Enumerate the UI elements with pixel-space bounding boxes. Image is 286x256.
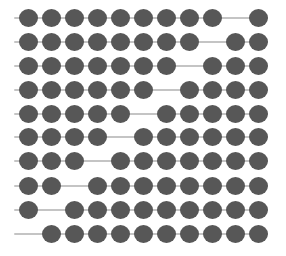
abacus-bead <box>157 9 176 27</box>
abacus-bead <box>111 177 130 195</box>
abacus-bead <box>157 33 176 51</box>
abacus-bead <box>65 33 84 51</box>
abacus-bead <box>42 105 61 123</box>
abacus-bead <box>249 201 268 219</box>
abacus-bead <box>65 105 84 123</box>
abacus-bead <box>203 105 222 123</box>
abacus-bead <box>226 128 245 146</box>
abacus-bead <box>65 128 84 146</box>
abacus-bead <box>203 152 222 170</box>
abacus-bead <box>111 33 130 51</box>
abacus-bead <box>134 152 153 170</box>
abacus-bead <box>134 57 153 75</box>
abacus-bead <box>88 57 107 75</box>
abacus-bead <box>42 33 61 51</box>
abacus-bead <box>111 201 130 219</box>
abacus-bead <box>42 177 61 195</box>
abacus-bead <box>111 57 130 75</box>
abacus-bead <box>19 105 38 123</box>
abacus-bead <box>249 81 268 99</box>
abacus-bead <box>249 225 268 243</box>
abacus-bead <box>157 152 176 170</box>
abacus-bead <box>249 128 268 146</box>
abacus-bead <box>88 201 107 219</box>
abacus-bead <box>180 225 199 243</box>
abacus-bead <box>88 9 107 27</box>
abacus-bead <box>180 9 199 27</box>
abacus-bead <box>88 81 107 99</box>
abacus-bead <box>180 33 199 51</box>
abacus-bead <box>65 225 84 243</box>
abacus-bead <box>203 201 222 219</box>
abacus-bead <box>134 225 153 243</box>
abacus-bead <box>42 81 61 99</box>
abacus-bead <box>249 57 268 75</box>
abacus-bead <box>226 225 245 243</box>
abacus-bead <box>19 81 38 99</box>
abacus-bead <box>19 33 38 51</box>
abacus-bead <box>180 152 199 170</box>
abacus-bead <box>157 225 176 243</box>
abacus-bead <box>180 105 199 123</box>
abacus-bead <box>203 9 222 27</box>
abacus-bead <box>134 9 153 27</box>
abacus-bead <box>226 201 245 219</box>
abacus-bead <box>88 225 107 243</box>
abacus-bead <box>203 177 222 195</box>
abacus-bead <box>19 152 38 170</box>
abacus-bead <box>19 177 38 195</box>
abacus-bead <box>88 177 107 195</box>
abacus-bead <box>42 9 61 27</box>
abacus-bead <box>111 9 130 27</box>
abacus-bead <box>65 152 84 170</box>
abacus-bead <box>42 128 61 146</box>
abacus-bead <box>226 57 245 75</box>
abacus-bead <box>19 201 38 219</box>
abacus-bead <box>180 81 199 99</box>
abacus-bead <box>88 33 107 51</box>
abacus-bead <box>88 105 107 123</box>
abacus-bead <box>249 177 268 195</box>
abacus-bead <box>134 201 153 219</box>
abacus-bead <box>249 33 268 51</box>
abacus-bead <box>42 152 61 170</box>
abacus-bead <box>157 201 176 219</box>
abacus-bead <box>134 33 153 51</box>
abacus-bead <box>203 81 222 99</box>
abacus-bead <box>249 9 268 27</box>
abacus-bead <box>111 105 130 123</box>
abacus-bead <box>111 81 130 99</box>
abacus-bead <box>226 105 245 123</box>
abacus-bead <box>226 33 245 51</box>
abacus-bead <box>19 9 38 27</box>
abacus-bead <box>111 152 130 170</box>
abacus-bead <box>180 128 199 146</box>
abacus-bead <box>88 128 107 146</box>
abacus-bead <box>19 57 38 75</box>
abacus-bead <box>157 177 176 195</box>
abacus-bead <box>226 152 245 170</box>
abacus-bead <box>134 128 153 146</box>
abacus-bead <box>42 57 61 75</box>
abacus-bead <box>65 201 84 219</box>
abacus-bead <box>65 81 84 99</box>
abacus-bead <box>157 128 176 146</box>
abacus-bead <box>203 225 222 243</box>
abacus-bead <box>134 177 153 195</box>
abacus-bead <box>203 128 222 146</box>
abacus-bead <box>134 81 153 99</box>
abacus-bead <box>157 57 176 75</box>
abacus-bead <box>203 57 222 75</box>
abacus-bead <box>249 105 268 123</box>
abacus-bead <box>226 81 245 99</box>
abacus-bead <box>65 57 84 75</box>
abacus-bead <box>65 9 84 27</box>
abacus-bead <box>249 152 268 170</box>
abacus-bead <box>42 225 61 243</box>
abacus-bead <box>180 177 199 195</box>
abacus-bead <box>111 225 130 243</box>
abacus-bead <box>226 177 245 195</box>
abacus-diagram <box>0 0 286 256</box>
abacus-bead <box>19 128 38 146</box>
abacus-bead <box>157 105 176 123</box>
